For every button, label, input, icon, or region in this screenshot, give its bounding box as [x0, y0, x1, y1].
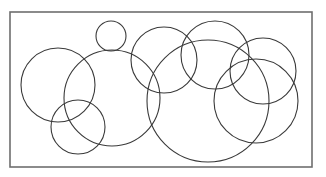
circle-center-right-upper — [181, 21, 249, 89]
circle-left-center-large — [64, 50, 160, 146]
circle-top-small — [96, 21, 126, 51]
diagram-frame — [10, 12, 312, 167]
circle-center-large — [147, 40, 269, 162]
circle-right-lower — [214, 59, 298, 143]
circles-diagram — [0, 0, 326, 177]
circle-group — [21, 21, 298, 162]
circle-bottom-left — [51, 100, 105, 154]
